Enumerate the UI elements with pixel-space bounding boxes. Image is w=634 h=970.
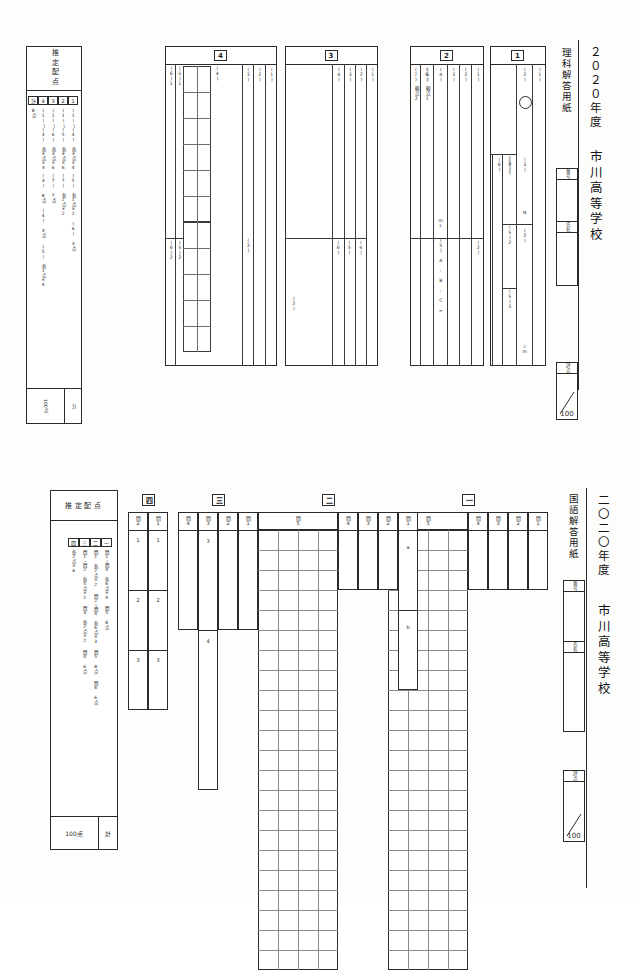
haiten-column: 3(1)～(6) 各3点×6(7) 7点 bbox=[48, 96, 58, 366]
name-input-area[interactable] bbox=[557, 233, 577, 285]
haiten-column: 2(1)～(5) 各3点×6(7) 各2点×2 bbox=[58, 96, 68, 366]
sec1-header-問2: 問2 bbox=[508, 512, 528, 530]
s3-label-2: (2) bbox=[355, 66, 366, 82]
s1-col-sep-c bbox=[502, 154, 503, 366]
section-badge-三: 三 bbox=[212, 494, 225, 506]
sec2-col-問1[interactable] bbox=[398, 512, 418, 690]
s3-label-4: (4) bbox=[332, 66, 344, 82]
sec4-header-問2: 問2 bbox=[128, 512, 148, 530]
s1-label-5-1: (5)1 bbox=[502, 156, 516, 174]
haiten-total-label: 計 bbox=[98, 816, 118, 850]
s4-label-6-1: (6)1 bbox=[166, 66, 175, 86]
sec1-col-問4-hdr bbox=[468, 530, 488, 531]
sec4-問2-split1 bbox=[128, 590, 148, 591]
sec1-col-問2-hdr bbox=[508, 530, 528, 531]
s2-col-sep-1 bbox=[459, 64, 460, 366]
science-answer-sheet: ２０２０年度市川高等学校理科解答用紙番号氏名評点1001(1)(2)(4)(3)… bbox=[0, 0, 634, 450]
sec4-marker-問2-1: 1 bbox=[128, 535, 148, 545]
sec2-grid-問5-v3 bbox=[318, 530, 319, 970]
s4-label-3: (3) bbox=[242, 66, 253, 82]
sec4-col-問1-hdr bbox=[148, 530, 168, 531]
s2-formula-abc: (5) A : B : C = bbox=[433, 240, 447, 310]
number-input-area[interactable] bbox=[557, 180, 577, 220]
name-input-area[interactable] bbox=[564, 653, 584, 731]
sec3-col-問4-hdr bbox=[178, 530, 198, 531]
school-name: 市川高等学校 bbox=[588, 150, 601, 247]
sec3-header-問1: 問1 bbox=[238, 512, 258, 530]
sec2-grid-問5-v1 bbox=[278, 530, 279, 970]
s4-col-sep-left bbox=[175, 64, 176, 366]
haiten-section-badge: 四 bbox=[68, 538, 79, 547]
sec4-問1-split1 bbox=[148, 590, 168, 591]
s2-col-sep-2 bbox=[447, 64, 448, 366]
s3-label-6: (6) bbox=[332, 240, 343, 254]
section-badge-四: 四 bbox=[142, 494, 155, 506]
s1-label-1: (1) bbox=[532, 66, 546, 82]
s1-mid-split bbox=[490, 154, 516, 155]
sec3-col-問3-hdr bbox=[198, 530, 218, 531]
sec4-marker-問1-3: 3 bbox=[148, 655, 168, 665]
sec2-grid-問5-v2 bbox=[298, 530, 299, 970]
s3-col-sep-2 bbox=[344, 64, 345, 366]
haiten-line: 問5 8点 bbox=[101, 606, 112, 788]
haiten-line: (6) 3点 bbox=[68, 221, 78, 366]
sec2-col-問1-hdr bbox=[398, 530, 418, 531]
sec2-header-問2: 問2 bbox=[378, 512, 398, 530]
haiten-total-label: 計 bbox=[64, 388, 82, 424]
sec4-marker-問1-1: 1 bbox=[148, 535, 168, 545]
sec3-header-問3: 問3 bbox=[198, 512, 218, 530]
s1-label-5-3: (5)3 bbox=[502, 290, 516, 308]
name-label: 氏名 bbox=[563, 641, 585, 652]
s2-label-2b: (2) bbox=[471, 240, 484, 254]
s1-unit-N: N bbox=[516, 206, 532, 218]
sec4-marker-問2-3: 3 bbox=[128, 655, 148, 665]
number-input-area[interactable] bbox=[564, 592, 584, 640]
sec1-col-問1-hdr bbox=[528, 530, 548, 531]
haiten-column: 一問1～問4 各6点×4問5 8点 bbox=[101, 538, 112, 788]
s1-label-2b: (2) bbox=[516, 228, 532, 242]
haiten-line: 8点 bbox=[28, 108, 38, 366]
sec3-col-問3[interactable] bbox=[198, 512, 218, 790]
s2-kanten-1: 観点1 bbox=[422, 82, 431, 104]
sec4-問2-split2 bbox=[128, 650, 148, 651]
haiten-section-badge: 一 bbox=[101, 538, 112, 547]
s3-mid-split bbox=[285, 238, 366, 239]
sec2-問1-ab-split bbox=[398, 610, 418, 611]
haiten-line: 問6 6点 bbox=[90, 681, 101, 788]
haiten-section-badge: 1 bbox=[68, 96, 78, 105]
japanese-answer-sheet: 二〇二〇年度市川高等学校国語解答用紙番号氏名評点100問1問2問3問4問5一問1… bbox=[0, 452, 634, 902]
s1-label-3: (3) bbox=[516, 156, 532, 172]
sec2-col-問2-hdr bbox=[378, 530, 398, 531]
s4-col-sep-0 bbox=[265, 64, 266, 366]
s3-label-1: (1) bbox=[366, 66, 378, 82]
haiten-section-badge: 3 bbox=[48, 96, 58, 105]
s2-kanten-split bbox=[410, 238, 434, 239]
sec4-marker-問1-2: 2 bbox=[148, 595, 168, 605]
s1-col-sep-d bbox=[492, 154, 493, 366]
haiten-line: (7) 7点 bbox=[48, 173, 58, 366]
s2-kanten-2: 観点2 bbox=[411, 82, 420, 104]
s4-label-2: (2) bbox=[253, 66, 265, 82]
circle-mark-icon bbox=[519, 96, 532, 109]
s3-label-3: (3) bbox=[344, 66, 355, 82]
sec3-col-問1-hdr bbox=[238, 530, 258, 531]
s4-grid-bot-v1 bbox=[197, 222, 198, 352]
s4-label-6-2: (6)2 bbox=[166, 240, 175, 260]
haiten-section-badge: 4 bbox=[38, 96, 48, 105]
s1-unit-cm: cm bbox=[516, 342, 532, 356]
sec3-marker-4: 4 bbox=[198, 636, 218, 646]
subject-title: 国語解答用紙 bbox=[568, 494, 578, 564]
score-denominator: 100 bbox=[556, 408, 578, 419]
haiten-section-badge: 二 bbox=[90, 538, 101, 547]
sec2-header-問3: 問3 bbox=[358, 512, 378, 530]
sec2-header-問1: 問1 bbox=[398, 512, 418, 530]
sec2-header-問5: 問5 bbox=[258, 512, 338, 530]
header-divider-rule bbox=[578, 40, 579, 390]
haiten-title: 推定配点 bbox=[50, 490, 118, 520]
haiten-line: 各2点×6 bbox=[68, 550, 79, 788]
sec3-col-問2-hdr bbox=[218, 530, 238, 531]
s4-label-4: (4) bbox=[211, 66, 222, 80]
s2-label-7: (7) bbox=[410, 66, 420, 82]
s2-col-sep-0 bbox=[471, 64, 472, 366]
